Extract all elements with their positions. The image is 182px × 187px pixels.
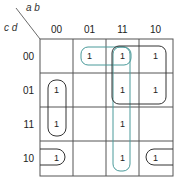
cell-00-01: 1 [73,39,106,73]
cell-10-00: 1 [40,141,73,175]
column-variables-label: a b [26,2,40,13]
column-label-11: 11 [106,24,139,35]
row-label-11: 11 [8,119,34,130]
cell-11-00: 1 [40,107,73,141]
row-label-10: 10 [8,153,34,164]
cell-00-10: 1 [139,39,172,73]
cell-10-11: 1 [106,141,139,175]
row-variables-label: c d [4,22,17,33]
row-label-01: 01 [8,85,34,96]
cell-10-10: 1 [139,141,172,175]
column-label-01: 01 [73,24,106,35]
cell-00-11: 1 [106,39,139,73]
row-label-00: 00 [8,51,34,62]
cell-01-10: 1 [139,73,172,107]
cell-01-11: 1 [106,73,139,107]
column-label-10: 10 [139,24,172,35]
cell-01-00: 1 [40,73,73,107]
column-label-00: 00 [40,24,73,35]
cell-11-11: 1 [106,107,139,141]
